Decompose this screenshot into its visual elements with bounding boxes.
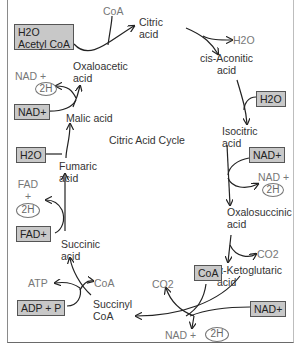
2h-oval-fad: 2H bbox=[16, 203, 40, 218]
malic-acid-label: Malic acid bbox=[66, 112, 113, 124]
h2o-aconitic-box: H2O bbox=[256, 91, 286, 107]
coa-ketoglutaric-box: CoA bbox=[194, 265, 222, 281]
citric-acid-label: Citric acid bbox=[139, 16, 163, 40]
coa-output-succinyl: CoA bbox=[94, 277, 114, 289]
2h-oval-malic: 2H bbox=[35, 82, 57, 96]
succinyl-coa-label: Succinyl CoA bbox=[93, 298, 132, 322]
co2-output-ketoglutaric: CO2 bbox=[152, 278, 174, 290]
2h-oval-ketoglutaric: 2H bbox=[205, 327, 229, 342]
isocitric-acid-label: Isocitric acid bbox=[222, 125, 258, 149]
h2o-fumaric-box: H2O bbox=[16, 147, 46, 163]
alpha-ketoglutaric-acid-label: α-Ketoglutaric acid bbox=[217, 264, 282, 288]
nad-ketoglutaric-box: NAD+ bbox=[250, 301, 286, 317]
fad-box: FAD+ bbox=[16, 226, 51, 242]
succinic-acid-label: Succinic acid bbox=[61, 238, 100, 262]
coa-output: CoA bbox=[103, 5, 123, 17]
nad-isocitric-box: NAD+ bbox=[249, 147, 285, 163]
nad-output-ketoglutaric: NAD + bbox=[165, 329, 196, 341]
diagram-title: Citric Acid Cycle bbox=[109, 134, 185, 146]
2h-oval-isocitric: 2H bbox=[262, 183, 284, 197]
oxaloacetic-acid-label: Oxaloacetic acid bbox=[73, 60, 128, 84]
fad-output: FAD + bbox=[17, 178, 39, 202]
fumaric-acid-label: Fumaric acid bbox=[59, 160, 97, 184]
h2o-output: H2O bbox=[233, 34, 255, 46]
cis-aconitic-acid-label: cis-Aconitic acid bbox=[200, 52, 253, 76]
atp-output: ATP bbox=[28, 277, 48, 289]
adp-p-box: ADP + P bbox=[17, 300, 65, 316]
co2-output-oxalosuccinic: CO2 bbox=[257, 248, 279, 260]
nad-output-malic: NAD + bbox=[15, 70, 46, 82]
nad-malic-box: NAD+ bbox=[14, 104, 50, 120]
oxalosuccinic-acid-label: Oxalosuccinic acid bbox=[227, 206, 292, 230]
nad-output-isocitric: NAD + bbox=[258, 171, 289, 183]
h2o-acetyl-coa-box: H2O Acetyl CoA bbox=[14, 24, 74, 50]
